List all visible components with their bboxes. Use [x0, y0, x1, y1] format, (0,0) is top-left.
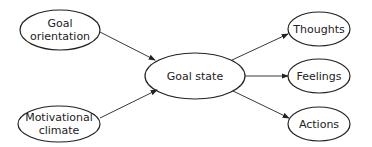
actions-label: Actions: [299, 118, 339, 131]
feelings-label: Feelings: [296, 70, 341, 83]
actions-node: Actions: [288, 107, 350, 141]
goal-state-node: Goal state: [145, 53, 245, 99]
goal-orientation-line2: orientation: [30, 30, 90, 43]
goal-state-label: Goal state: [167, 70, 223, 83]
motivational-climate-line2: climate: [39, 124, 80, 137]
motivational-climate-node: Motivational climate: [18, 106, 100, 142]
motivational-climate-line1: Motivational: [25, 111, 93, 124]
goal-orientation-line1: Goal: [47, 17, 72, 30]
diagram: Goal orientation Motivational climate Go…: [0, 0, 372, 147]
thoughts-label: Thoughts: [293, 23, 344, 36]
goal-orientation-node: Goal orientation: [20, 10, 100, 50]
feelings-node: Feelings: [288, 59, 350, 93]
thoughts-node: Thoughts: [288, 12, 350, 46]
